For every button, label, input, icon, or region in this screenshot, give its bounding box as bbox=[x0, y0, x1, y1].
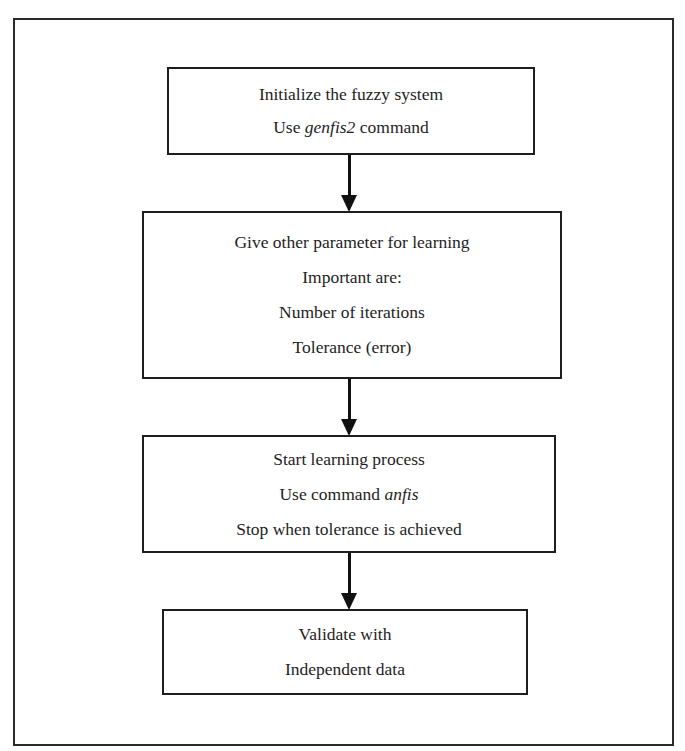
step-line: Validate with bbox=[299, 617, 392, 652]
step-text: Start learning process bbox=[273, 449, 425, 469]
step-line: Use genfis2 command bbox=[273, 111, 429, 144]
step-text: command bbox=[355, 117, 428, 137]
step-line: Start learning process bbox=[273, 442, 425, 477]
arrow-down-icon bbox=[341, 155, 357, 212]
step-text: Tolerance (error) bbox=[293, 337, 412, 357]
step-line: Initialize the fuzzy system bbox=[259, 78, 443, 111]
step-line: Give other parameter for learning bbox=[234, 225, 469, 260]
step-line: Stop when tolerance is achieved bbox=[236, 512, 461, 547]
command-name-genfis2: genfis2 bbox=[305, 117, 356, 137]
step-initialize-box: Initialize the fuzzy system Use genfis2 … bbox=[167, 67, 535, 155]
step-line: Independent data bbox=[285, 652, 405, 687]
step-line: Number of iterations bbox=[279, 295, 425, 330]
step-learning-box: Start learning process Use command anfis… bbox=[142, 435, 556, 553]
arrow-down-icon bbox=[341, 553, 357, 610]
step-validate-box: Validate with Independent data bbox=[162, 609, 528, 695]
step-text: Give other parameter for learning bbox=[234, 232, 469, 252]
arrow-down-icon bbox=[341, 379, 357, 436]
command-name-anfis: anfis bbox=[384, 484, 418, 504]
step-text: Validate with bbox=[299, 624, 392, 644]
step-text: Initialize the fuzzy system bbox=[259, 84, 443, 104]
step-text: Independent data bbox=[285, 659, 405, 679]
step-line: Important are: bbox=[302, 260, 402, 295]
step-text: Number of iterations bbox=[279, 302, 425, 322]
step-text: Use command bbox=[279, 484, 384, 504]
step-parameters-box: Give other parameter for learning Import… bbox=[142, 211, 562, 379]
step-line: Tolerance (error) bbox=[293, 330, 412, 365]
step-text: Important are: bbox=[302, 267, 402, 287]
step-text: Stop when tolerance is achieved bbox=[236, 519, 461, 539]
step-line: Use command anfis bbox=[279, 477, 418, 512]
step-text: Use bbox=[273, 117, 305, 137]
